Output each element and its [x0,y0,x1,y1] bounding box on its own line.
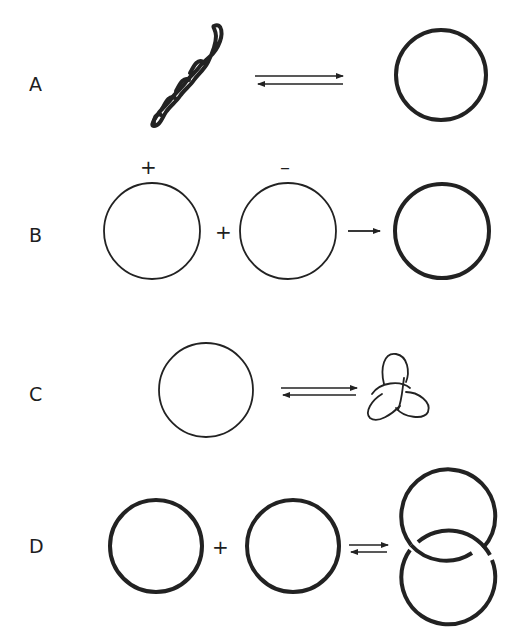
trefoil-knot [368,354,429,420]
relaxed-circle-b [395,184,489,278]
circle-d-left [110,500,202,592]
supercoiled-dna [152,25,221,126]
equilibrium-arrow-a [255,76,343,84]
equilibrium-arrow-c [281,388,357,395]
catenane-upper-ring [401,469,495,548]
catenane [401,469,495,624]
relaxed-circle-a [396,30,486,120]
positive-supercoiled-circle [104,183,200,279]
diagram-canvas [0,0,515,639]
circle-d-middle [247,500,339,592]
unknotted-circle [159,343,253,437]
negative-supercoiled-circle [240,183,336,279]
equilibrium-arrow-d [349,545,388,552]
topoisomerase-reactions-figure: A B C D + – + + [0,0,515,639]
